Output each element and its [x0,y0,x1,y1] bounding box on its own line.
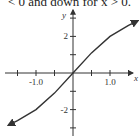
y-tick-label: -2 [61,105,69,115]
function-graph: -1.01.0 2-2 x y [0,0,139,136]
y-tick-label: 2 [64,31,69,41]
y-axis-label: y [61,10,66,20]
x-tick-label: -1.0 [29,77,44,87]
x-axis-label: x [133,73,138,83]
x-tick-label: 1.0 [104,77,116,87]
